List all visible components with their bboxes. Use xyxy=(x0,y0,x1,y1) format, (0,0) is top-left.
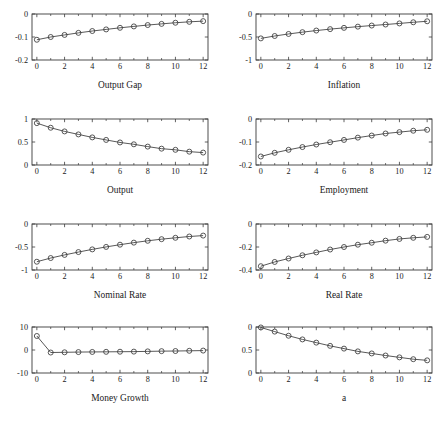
x-tick-label: 12 xyxy=(423,375,431,384)
panel-caption: Output Gap xyxy=(98,80,142,90)
y-tick-label: -0.2 xyxy=(15,56,28,65)
x-tick-label: 6 xyxy=(118,62,122,71)
x-tick-label: 0 xyxy=(259,272,263,281)
y-tick-label: 0 xyxy=(24,10,28,19)
panel-caption: Nominal Rate xyxy=(94,290,146,300)
chart-panel: 024681012100-10Money Growth xyxy=(0,313,223,418)
x-tick-label: 2 xyxy=(63,62,67,71)
y-tick-label: -0.4 xyxy=(239,266,252,275)
series-line xyxy=(261,327,427,360)
x-tick-label: 4 xyxy=(314,167,318,176)
y-tick-label: -0.2 xyxy=(239,161,252,170)
y-tick-label: 0 xyxy=(248,323,252,332)
x-tick-label: 10 xyxy=(395,167,403,176)
panel-caption: Real Rate xyxy=(326,290,363,300)
y-tick-label: -0.2 xyxy=(239,243,252,252)
x-tick-label: 12 xyxy=(423,167,431,176)
y-tick-label: -0.1 xyxy=(239,138,252,147)
x-tick-label: 12 xyxy=(423,62,431,71)
chart-panel: 02468101210.50Output xyxy=(0,105,223,210)
x-tick-label: 10 xyxy=(171,272,179,281)
x-tick-label: 0 xyxy=(35,272,39,281)
x-tick-label: 8 xyxy=(146,62,150,71)
panel-caption: Money Growth xyxy=(91,393,149,403)
x-tick-label: 6 xyxy=(118,272,122,281)
y-tick-label: 0 xyxy=(248,369,252,378)
x-tick-label: 4 xyxy=(90,272,94,281)
panel-caption: Inflation xyxy=(328,80,361,90)
x-tick-label: 6 xyxy=(342,272,346,281)
x-tick-label: 6 xyxy=(342,167,346,176)
axis-frame xyxy=(256,14,432,60)
x-tick-label: 2 xyxy=(287,272,291,281)
x-tick-label: 4 xyxy=(314,62,318,71)
chart-panel: 0246810120-0.2-0.4Real Rate xyxy=(224,210,447,315)
y-tick-label: 0 xyxy=(248,10,252,19)
x-tick-label: 10 xyxy=(171,167,179,176)
x-tick-label: 4 xyxy=(314,375,318,384)
y-tick-label: 10 xyxy=(20,323,28,332)
panel-caption: a xyxy=(342,393,347,403)
x-tick-label: 12 xyxy=(199,272,207,281)
x-tick-label: 2 xyxy=(287,167,291,176)
y-tick-label: 0.5 xyxy=(242,346,252,355)
x-tick-label: 12 xyxy=(199,375,207,384)
x-tick-label: 4 xyxy=(90,167,94,176)
x-tick-label: 8 xyxy=(370,167,374,176)
chart-panel: 0246810120-0.5-1Nominal Rate xyxy=(0,210,223,315)
x-tick-label: 12 xyxy=(423,272,431,281)
series-line xyxy=(261,237,427,266)
chart-panel: 0246810120-0.5-1Inflation xyxy=(224,0,447,105)
y-tick-label: 0 xyxy=(248,220,252,229)
series-line xyxy=(37,236,203,262)
y-tick-label: 0 xyxy=(24,346,28,355)
y-tick-label: 0 xyxy=(24,220,28,229)
x-tick-label: 10 xyxy=(171,375,179,384)
y-tick-label: 0 xyxy=(248,115,252,124)
x-tick-label: 8 xyxy=(370,375,374,384)
x-tick-label: 6 xyxy=(118,167,122,176)
chart-panel: 0246810120-0.1-0.2Output Gap xyxy=(0,0,223,105)
axis-frame xyxy=(32,327,208,373)
y-tick-label: -1 xyxy=(21,266,28,275)
chart-panel: 02468101200.50a xyxy=(224,313,447,418)
y-tick-label: -0.1 xyxy=(15,33,28,42)
x-tick-label: 4 xyxy=(314,272,318,281)
x-tick-label: 12 xyxy=(199,62,207,71)
x-tick-label: 6 xyxy=(118,375,122,384)
x-tick-label: 2 xyxy=(287,62,291,71)
x-tick-label: 2 xyxy=(63,167,67,176)
x-tick-label: 0 xyxy=(35,62,39,71)
x-tick-label: 4 xyxy=(90,375,94,384)
x-tick-label: 10 xyxy=(395,375,403,384)
x-tick-label: 8 xyxy=(146,167,150,176)
axis-frame xyxy=(256,119,432,165)
axis-frame xyxy=(32,119,208,165)
y-tick-label: -0.5 xyxy=(15,243,28,252)
y-tick-label: 1 xyxy=(24,115,28,124)
x-tick-label: 0 xyxy=(259,62,263,71)
x-tick-label: 6 xyxy=(342,62,346,71)
chart-panel: 0246810120-0.1-0.2Employment xyxy=(224,105,447,210)
y-tick-label: 0.5 xyxy=(18,138,28,147)
x-tick-label: 10 xyxy=(395,272,403,281)
impulse-response-figure: 0246810120-0.1-0.2Output Gap0246810120-0… xyxy=(0,0,447,423)
panel-caption: Output xyxy=(107,185,133,195)
y-tick-label: 0 xyxy=(24,161,28,170)
series-line xyxy=(37,123,203,152)
y-tick-label: -0.5 xyxy=(239,33,252,42)
x-tick-label: 6 xyxy=(342,375,346,384)
axis-frame xyxy=(32,14,208,60)
x-tick-label: 8 xyxy=(146,375,150,384)
x-tick-label: 8 xyxy=(146,272,150,281)
y-tick-label: -1 xyxy=(245,56,252,65)
x-tick-label: 4 xyxy=(90,62,94,71)
series-line xyxy=(37,336,203,353)
x-tick-label: 8 xyxy=(370,62,374,71)
series-line xyxy=(261,130,427,157)
x-tick-label: 2 xyxy=(63,375,67,384)
y-tick-label: -10 xyxy=(17,369,28,378)
panel-caption: Employment xyxy=(320,185,369,195)
x-tick-label: 2 xyxy=(287,375,291,384)
x-tick-label: 10 xyxy=(395,62,403,71)
